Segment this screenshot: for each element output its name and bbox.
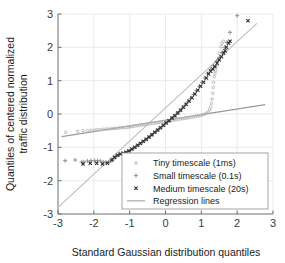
y-tick-label: 1 [47, 75, 53, 87]
x-tick-label: -1 [125, 217, 135, 229]
x-tick-label: -2 [89, 217, 99, 229]
y-tick-label: -3 [43, 208, 53, 220]
y-tick-label: -2 [43, 175, 53, 187]
x-tick-label: 2 [234, 217, 240, 229]
x-axis-label: Standard Gaussian distribution quantiles [72, 246, 261, 258]
chart-canvas: -3-2-10123 -3-2-10123 Tiny timescale (1m… [0, 0, 285, 263]
legend-item-label: Small timescale (0.1s) [153, 171, 242, 181]
legend-item-label: Regression lines [153, 196, 220, 206]
x-tick-label: -3 [53, 217, 63, 229]
x-tick-label: 1 [198, 217, 204, 229]
x-tick-label: 0 [162, 217, 168, 229]
chart-legend[interactable]: Tiny timescale (1ms)Small timescale (0.1… [122, 153, 268, 209]
y-tick-label: -1 [43, 141, 53, 153]
y-tick-label: 0 [47, 108, 53, 120]
y-axis-label-line1: Quantiles of centered normalized [4, 37, 16, 191]
figure-background [0, 0, 285, 263]
y-tick-label: 2 [47, 41, 53, 53]
legend-item-label: Tiny timescale (1ms) [153, 158, 236, 168]
y-axis-label-line2: traffic distribution [17, 74, 29, 153]
x-tick-label: 3 [270, 217, 276, 229]
y-tick-label: 3 [47, 8, 53, 20]
qq-plot-figure: -3-2-10123 -3-2-10123 Tiny timescale (1m… [0, 0, 285, 263]
legend-item-label: Medium timescale (20s) [153, 184, 249, 194]
